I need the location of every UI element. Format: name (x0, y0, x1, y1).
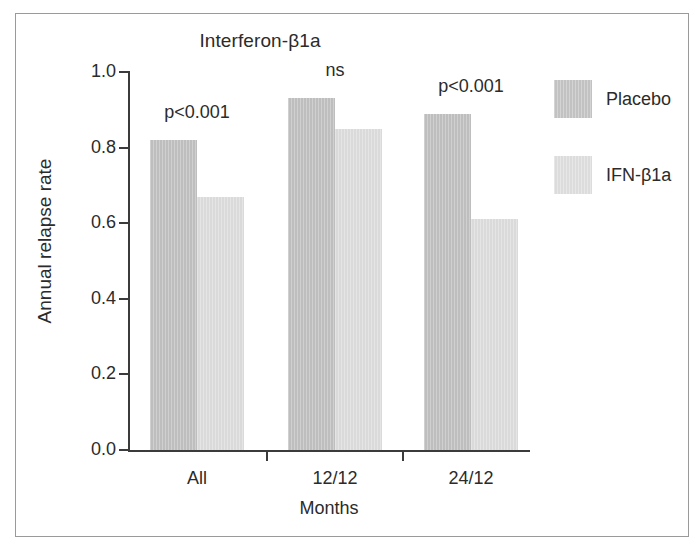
bar-placebo-All (150, 140, 197, 450)
bar-ifn-1a-12-12 (335, 129, 382, 450)
x-tick-mark (266, 452, 268, 461)
y-axis-title: Annual relapse rate (34, 91, 56, 391)
annotation-All: p<0.001 (117, 102, 277, 123)
y-tick-label: 0.4 (54, 288, 116, 309)
y-tick-mark (119, 373, 128, 375)
x-axis-title: Months (128, 498, 530, 519)
y-tick-label-wrap: 0.0 (48, 450, 116, 451)
legend-label: Placebo (606, 89, 671, 110)
bar-placebo-24-12 (424, 114, 471, 450)
y-tick-label: 0.8 (54, 137, 116, 158)
y-tick-mark (119, 147, 128, 149)
plot-area (128, 72, 528, 450)
y-tick-mark (119, 298, 128, 300)
x-tick-label-24-12: 24/12 (411, 468, 531, 489)
legend-item-ifn-1a: IFN-β1a (554, 156, 671, 194)
x-axis-line (128, 450, 530, 452)
y-tick-label: 0.0 (54, 439, 116, 460)
y-tick-label-wrap: 0.6 (48, 223, 116, 224)
y-tick-mark (119, 449, 128, 451)
y-tick-mark (119, 222, 128, 224)
bar-ifn-1a-24-12 (471, 219, 518, 450)
y-tick-label: 0.6 (54, 212, 116, 233)
y-tick-label: 1.0 (54, 61, 116, 82)
legend-swatch (554, 80, 592, 118)
figure-container: Interferon-β1a 0.00.20.40.60.81.0 All12/… (0, 0, 699, 551)
legend-swatch (554, 156, 592, 194)
y-tick-label-wrap: 0.8 (48, 148, 116, 149)
legend-label: IFN-β1a (606, 165, 671, 186)
y-tick-label-wrap: 1.0 (48, 72, 116, 73)
y-tick-mark (119, 71, 128, 73)
legend-item-placebo: Placebo (554, 80, 671, 118)
annotation-24-12: p<0.001 (391, 76, 551, 97)
chart-title: Interferon-β1a (0, 30, 520, 52)
y-tick-label-wrap: 0.4 (48, 299, 116, 300)
x-tick-label-12-12: 12/12 (275, 468, 395, 489)
y-tick-label: 0.2 (54, 363, 116, 384)
x-tick-mark (402, 452, 404, 461)
bar-placebo-12-12 (288, 98, 335, 450)
bar-ifn-1a-All (197, 197, 244, 450)
y-tick-label-wrap: 0.2 (48, 374, 116, 375)
x-tick-label-All: All (137, 468, 257, 489)
